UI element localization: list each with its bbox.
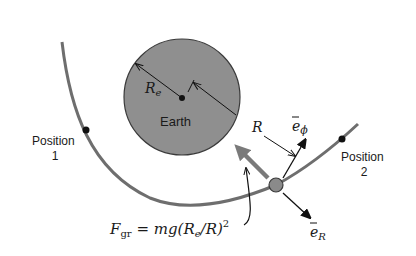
gravity-force-arrow [240,150,268,178]
force-equation: Fgr = mg(Re/R)2 [109,218,229,239]
e-r-vector: eR [283,193,326,242]
e-phi-arrow [283,142,304,178]
r-lower-line [264,136,295,156]
position-1: Position 1 [32,127,90,164]
position-1-label: Position 1 [32,134,78,163]
e-phi-label: eϕ [292,118,308,137]
orbit-diagram: Re Earth R Position 1 Position 2 eϕ [0,0,416,256]
e-r-label: eR [310,224,326,242]
distance-label: R [251,119,263,135]
position-1-dot [83,127,90,134]
position-2: Position 2 [339,136,388,180]
position-2-dot [339,136,346,143]
position-2-label: Position 2 [341,150,387,179]
earth-label: Earth [160,114,191,129]
earth: Re Earth [124,39,240,155]
e-r-arrow [283,193,308,216]
satellite [269,178,283,192]
